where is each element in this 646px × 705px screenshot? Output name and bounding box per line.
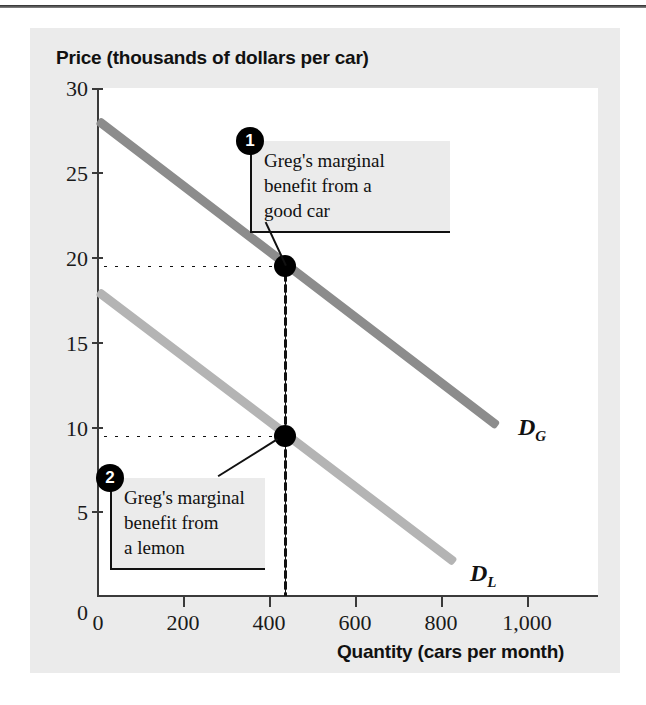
y-tick-label-30: 30 <box>66 76 88 102</box>
curve-label-dl-sub: L <box>487 574 496 590</box>
x-tick-400 <box>269 596 271 607</box>
x-tick-label-800: 800 <box>401 610 481 636</box>
x-axis-title: Quantity (cars per month) <box>337 641 564 663</box>
y-tick-label-5: 5 <box>77 500 88 526</box>
x-tick-label-400: 400 <box>229 610 309 636</box>
y-tick-label-15: 15 <box>66 331 88 357</box>
x-tick-800 <box>441 596 443 607</box>
y-tick-30 <box>92 88 103 90</box>
curve-label-dl: DL <box>470 560 497 591</box>
y-axis-title: Price (thousands of dollars per car) <box>56 47 369 69</box>
y-tick-20 <box>92 257 103 259</box>
callout-good-car-line2: benefit from a <box>264 173 440 198</box>
y-tick-label-25: 25 <box>66 161 88 187</box>
curve-label-dl-text: D <box>470 560 487 586</box>
y-tick-25 <box>92 172 103 174</box>
callout-badge-1: 1 <box>236 127 264 155</box>
callout-lemon: Greg's marginal benefit from a lemon <box>110 478 265 570</box>
x-tick-label-200: 200 <box>143 610 223 636</box>
callout-badge-2: 2 <box>96 464 124 492</box>
curve-label-dg: DG <box>518 414 546 445</box>
callout-lemon-line2: benefit from <box>124 510 255 535</box>
guide-line-price-10 <box>100 435 282 438</box>
callout-lemon-line3: a lemon <box>124 535 255 560</box>
y-tick-5 <box>92 511 103 513</box>
data-point-lemon[interactable] <box>274 425 296 447</box>
guide-line-price-20 <box>100 265 282 268</box>
callout-good-car: Greg's marginal benefit from a good car <box>250 141 450 233</box>
data-point-good-car[interactable] <box>274 255 296 277</box>
callout-lemon-line1: Greg's marginal <box>124 485 255 510</box>
x-tick-1000 <box>527 596 529 607</box>
x-tick-label-1000: 1,000 <box>487 610 567 636</box>
curve-label-dg-text: D <box>518 414 535 440</box>
x-axis-line <box>97 595 598 597</box>
callout-good-car-line3: good car <box>264 198 440 223</box>
y-tick-10 <box>92 427 103 429</box>
callout-good-car-line1: Greg's marginal <box>264 148 440 173</box>
top-divider-rule <box>0 5 646 8</box>
y-tick-15 <box>92 342 103 344</box>
x-tick-label-600: 600 <box>315 610 395 636</box>
x-tick-label-0: 0 <box>58 610 138 636</box>
x-tick-600 <box>355 596 357 607</box>
y-tick-label-10: 10 <box>66 416 88 442</box>
y-tick-label-20: 20 <box>66 246 88 272</box>
x-tick-200 <box>183 596 185 607</box>
figure-root: Price (thousands of dollars per car) 30 … <box>0 0 646 705</box>
curve-label-dg-sub: G <box>535 428 546 444</box>
